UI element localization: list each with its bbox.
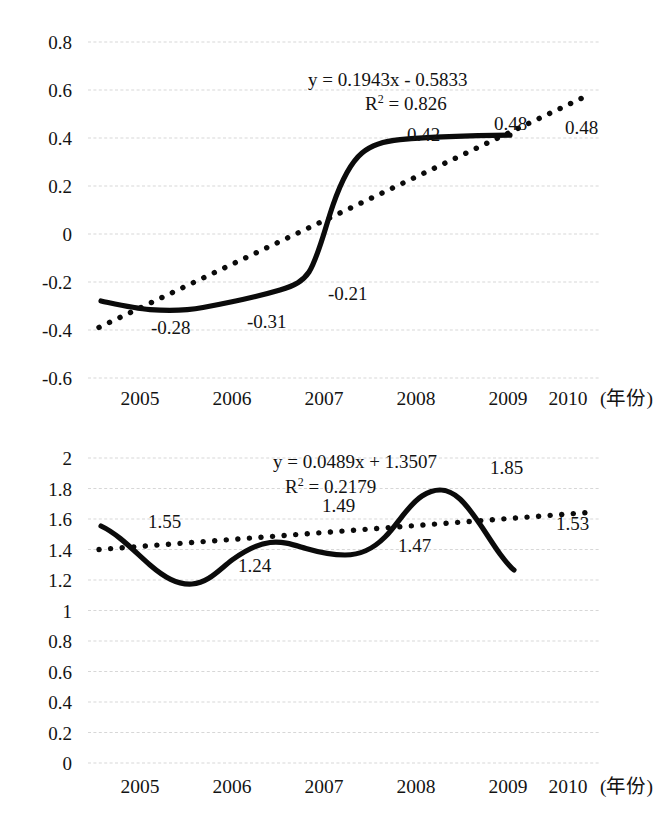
data-label: 1.53	[556, 513, 589, 534]
data-label: 1.49	[322, 495, 355, 516]
x-tick-label: 2006	[213, 388, 252, 409]
data-label: 0.48	[565, 117, 598, 138]
r2-base: R	[365, 93, 378, 114]
bottom-chart-data-labels: 1.55 1.24 1.49 1.47 1.85 1.53	[148, 457, 589, 576]
x-tick-label: 2010	[549, 388, 588, 409]
y-tick-label: 0.6	[48, 662, 72, 683]
top-chart-data-series	[101, 135, 510, 310]
x-tick-label: 2005	[121, 776, 160, 797]
top-chart-svg: 0.8 0.6 0.4 0.2 0 -0.2 -0.4 -0.6 y = 0.1…	[0, 0, 662, 420]
svg-text:R2 = 0.2179: R2 = 0.2179	[285, 475, 376, 497]
data-label: 1.55	[148, 511, 181, 532]
bottom-chart-data-series	[101, 490, 514, 584]
x-tick-label: 2008	[397, 388, 436, 409]
x-tick-label: 2005	[121, 388, 160, 409]
y-tick-label: 0.4	[48, 128, 72, 149]
y-tick-label: 0.4	[48, 692, 72, 713]
top-chart-x-axis: 2005 2006 2007 2008 2009 2010 (年份)	[121, 388, 654, 410]
top-chart-equation: y = 0.1943x - 0.5833	[308, 69, 468, 90]
x-tick-label: 2010	[549, 776, 588, 797]
x-tick-label: 2006	[213, 776, 252, 797]
y-tick-label: 1.2	[48, 570, 72, 591]
y-tick-label: -0.2	[42, 272, 72, 293]
r2-value: = 0.2179	[304, 476, 376, 497]
x-tick-label: 2009	[489, 776, 528, 797]
data-label: 1.24	[238, 555, 272, 576]
data-label: 0.48	[494, 113, 527, 134]
y-tick-label: 0	[63, 753, 73, 774]
x-tick-label: 2007	[305, 776, 344, 797]
bottom-chart-x-axis: 2005 2006 2007 2008 2009 2010 (年份)	[121, 776, 654, 798]
y-tick-label: 1.8	[48, 479, 72, 500]
bottom-chart-svg: 2 1.8 1.6 1.4 1.2 1 0.8 0.6 0.4 0.2 0 y …	[0, 420, 662, 834]
y-tick-label: 0.2	[48, 176, 72, 197]
top-chart-y-axis: 0.8 0.6 0.4 0.2 0 -0.2 -0.4 -0.6	[42, 32, 73, 389]
data-label: 0.42	[407, 124, 440, 145]
y-tick-label: 0.2	[48, 723, 72, 744]
bottom-chart-equation: y = 0.0489x + 1.3507	[273, 451, 437, 472]
y-tick-label: 1.6	[48, 509, 72, 530]
y-tick-label: 2	[63, 448, 73, 469]
r2-value: = 0.826	[384, 93, 447, 114]
x-axis-unit-label: (年份)	[600, 776, 653, 798]
x-axis-unit-label: (年份)	[600, 388, 653, 410]
y-tick-label: 0.8	[48, 631, 72, 652]
bottom-chart-r2: R2 = 0.2179	[285, 475, 376, 497]
x-tick-label: 2008	[397, 776, 436, 797]
bottom-chart-panel: 2 1.8 1.6 1.4 1.2 1 0.8 0.6 0.4 0.2 0 y …	[0, 420, 662, 834]
y-tick-label: 1	[63, 601, 73, 622]
y-tick-label: 0.8	[48, 32, 72, 53]
y-tick-label: 0	[63, 224, 73, 245]
data-label: 1.85	[490, 457, 523, 478]
data-label: 1.47	[398, 535, 431, 556]
y-tick-label: 1.4	[48, 540, 72, 561]
y-tick-label: -0.6	[42, 368, 72, 389]
top-chart-panel: 0.8 0.6 0.4 0.2 0 -0.2 -0.4 -0.6 y = 0.1…	[0, 0, 662, 420]
bottom-chart-y-axis: 2 1.8 1.6 1.4 1.2 1 0.8 0.6 0.4 0.2 0	[48, 448, 72, 774]
data-label: -0.31	[247, 311, 287, 332]
y-tick-label: 0.6	[48, 80, 72, 101]
data-label: -0.28	[151, 317, 191, 338]
r2-base: R	[285, 476, 298, 497]
two-panel-line-chart-figure: 0.8 0.6 0.4 0.2 0 -0.2 -0.4 -0.6 y = 0.1…	[0, 0, 662, 834]
x-tick-label: 2007	[305, 388, 344, 409]
top-chart-r2: R2 = 0.826	[365, 92, 447, 114]
x-tick-label: 2009	[489, 388, 528, 409]
data-label: -0.21	[328, 283, 368, 304]
svg-text:R2 = 0.826: R2 = 0.826	[365, 92, 447, 114]
y-tick-label: -0.4	[42, 320, 73, 341]
